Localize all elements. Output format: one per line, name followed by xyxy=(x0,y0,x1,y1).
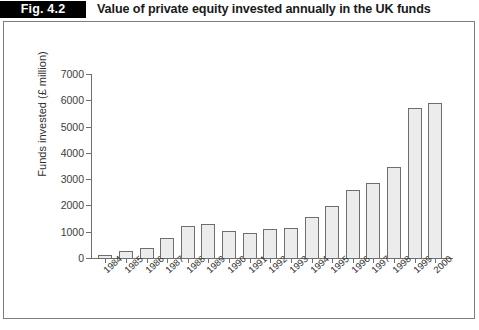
bar xyxy=(119,251,133,258)
bar xyxy=(325,206,339,258)
figure-header: Fig. 4.2 Value of private equity investe… xyxy=(0,0,479,18)
y-axis-tick xyxy=(86,205,91,206)
bar xyxy=(366,183,380,258)
figure-page: Fig. 4.2 Value of private equity investe… xyxy=(0,0,479,330)
bar xyxy=(387,167,401,258)
y-axis-tick xyxy=(86,100,91,101)
y-axis-tick xyxy=(86,153,91,154)
y-axis-tick-label: 5000 xyxy=(44,121,84,133)
bar xyxy=(284,228,298,258)
bar xyxy=(263,229,277,258)
y-axis-tick xyxy=(86,179,91,180)
y-axis-tick-label: 1000 xyxy=(44,226,84,238)
chart-panel: Funds invested (£ million) 0100020003000… xyxy=(3,21,475,319)
bar xyxy=(140,248,154,258)
bar xyxy=(201,224,215,258)
y-axis-tick-label: 7000 xyxy=(44,68,84,80)
bar xyxy=(160,238,174,258)
y-axis-tick-label: 0 xyxy=(44,252,84,264)
y-axis-tick xyxy=(86,127,91,128)
bar xyxy=(408,108,422,258)
y-axis-tick-label: 6000 xyxy=(44,94,84,106)
bar xyxy=(305,217,319,258)
figure-number-badge: Fig. 4.2 xyxy=(0,1,86,18)
y-axis-tick-label: 3000 xyxy=(44,173,84,185)
bar xyxy=(243,233,257,258)
y-axis-tick xyxy=(86,74,91,75)
y-axis-tick-label: 2000 xyxy=(44,199,84,211)
bar xyxy=(181,226,195,258)
bar xyxy=(346,190,360,258)
y-axis-tick xyxy=(86,232,91,233)
bar xyxy=(428,103,442,258)
bar xyxy=(222,231,236,258)
bar xyxy=(98,255,112,258)
y-axis-tick-label: 4000 xyxy=(44,147,84,159)
y-axis-line xyxy=(91,74,92,259)
y-axis-tick xyxy=(86,258,91,259)
figure-title: Value of private equity invested annuall… xyxy=(97,2,431,16)
